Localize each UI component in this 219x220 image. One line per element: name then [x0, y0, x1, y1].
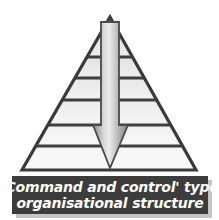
diagram-figure: 'Command and control' type organisationa…: [0, 0, 219, 220]
caption-line-2: organisational structure: [16, 195, 203, 211]
caption-line-1: 'Command and control' type: [1, 179, 218, 195]
caption-banner: 'Command and control' type organisationa…: [12, 176, 208, 214]
